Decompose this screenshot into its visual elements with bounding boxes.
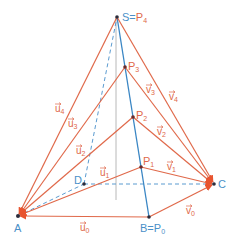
label-P1: P1 [143,155,154,168]
label-A: A [14,222,22,234]
label-C: C [218,178,226,190]
diagram-canvas: A B=P0 C D S=P4 P1 P2 P3 u0 u1 u2 [0,0,239,249]
label-B: B=P0 [140,222,165,235]
pyramid-diagram: A B=P0 C D S=P4 P1 P2 P3 u0 u1 u2 [0,0,239,249]
vector-v1 [141,167,212,184]
label-P2: P2 [136,109,147,122]
edge-AD [18,184,84,216]
vector-v0 [149,185,212,217]
point-C [212,182,216,186]
u-label-arrows [55,103,106,225]
u-labels: u0 u1 u2 u3 u4 [55,103,110,234]
vector-v2 [133,117,212,183]
point-labels: A B=P0 C D S=P4 P1 P2 P3 [14,11,226,235]
point-S [115,15,119,19]
point-P3 [123,65,127,69]
vector-v4 [117,17,213,182]
label-P3: P3 [128,60,139,73]
point-A [16,214,20,218]
point-P2 [131,115,135,119]
point-B [147,215,151,219]
label-D: D [74,174,82,186]
vector-u4 [19,17,117,214]
label-S: S=P4 [122,11,147,24]
vector-u3 [20,67,125,214]
point-D [82,182,86,186]
u-vectors [19,17,149,217]
vector-u0 [20,216,149,217]
